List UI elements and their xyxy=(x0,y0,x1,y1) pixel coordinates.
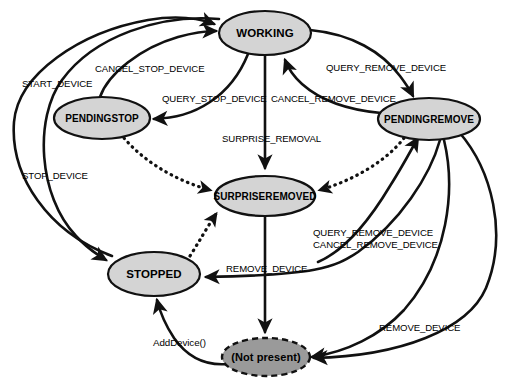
edge-label-remove-device-pendingremove: REMOVE_DEVICE xyxy=(379,322,460,333)
edge-label-add-device: AddDevice() xyxy=(153,337,206,348)
state-node-surpriseremoved[interactable]: SURPRISEREMOVED xyxy=(213,176,316,216)
state-label-working: WORKING xyxy=(236,27,294,39)
edge-label-query-remove-device-pendingremove: QUERY_REMOVE_DEVICE xyxy=(326,62,446,73)
state-diagram-svg: WORKING PENDINGSTOP PENDINGREMOVE SURPRI… xyxy=(0,0,531,390)
edge-dotted-stopped-surprise xyxy=(190,214,216,256)
edge-label-start-device: START_DEVICE xyxy=(22,78,92,89)
edge-add-device xyxy=(157,300,228,364)
edge-stop-device xyxy=(44,18,219,260)
state-node-stopped[interactable]: STOPPED xyxy=(108,252,200,296)
state-label-stopped: STOPPED xyxy=(126,268,181,280)
edge-label-stop-device: STOP_DEVICE xyxy=(22,170,88,181)
edge-label-remove-device-surprise: REMOVE_DEVICE xyxy=(226,263,307,274)
edge-dotted-pendingstop-surprise xyxy=(124,138,210,190)
state-label-notpresent: (Not present) xyxy=(231,351,301,363)
state-node-pendingremove[interactable]: PENDINGREMOVE xyxy=(378,98,480,140)
state-node-pendingstop[interactable]: PENDINGSTOP xyxy=(54,97,150,139)
edge-label-cancel-remove-device-stopped: CANCEL_REMOVE_DEVICE xyxy=(313,239,438,250)
edge-label-cancel-remove-device-working: CANCEL_REMOVE_DEVICE xyxy=(271,93,396,104)
state-node-notpresent[interactable]: (Not present) xyxy=(222,338,310,376)
state-label-pendingstop: PENDINGSTOP xyxy=(65,113,139,124)
state-label-pendingremove: PENDINGREMOVE xyxy=(384,114,474,125)
edge-label-cancel-stop-device: CANCEL_STOP_DEVICE xyxy=(95,63,204,74)
edge-label-query-stop-device: QUERY_STOP_DEVICE xyxy=(162,93,267,104)
edge-label-query-remove-device-stopped: QUERY_REMOVE_DEVICE xyxy=(313,227,433,238)
state-diagram-canvas: WORKING PENDINGSTOP PENDINGREMOVE SURPRI… xyxy=(0,0,531,390)
state-label-surpriseremoved: SURPRISEREMOVED xyxy=(213,191,316,202)
edge-label-surprise-removal: SURPRISE_REMOVAL xyxy=(222,133,322,144)
state-node-working[interactable]: WORKING xyxy=(219,11,311,55)
